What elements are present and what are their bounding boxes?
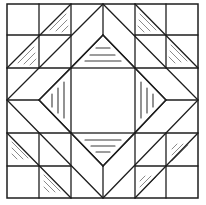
quilt-block-diagram xyxy=(0,0,206,205)
